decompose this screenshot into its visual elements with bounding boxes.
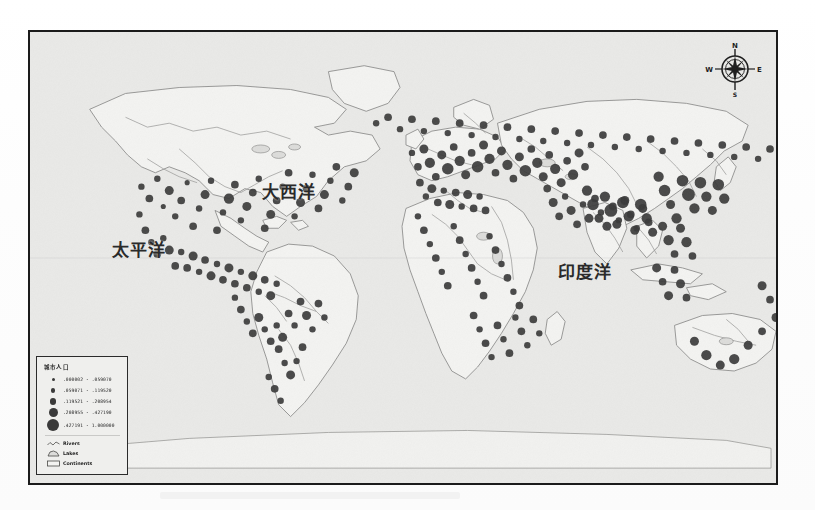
city-symbol [671, 137, 679, 145]
city-symbol [498, 261, 504, 267]
city-symbol [154, 176, 160, 182]
legend-feature-list: RiversLakesContinents [43, 439, 122, 467]
city-symbol [427, 241, 433, 247]
city-symbol [510, 175, 518, 183]
city-symbol [165, 246, 174, 255]
city-symbol [659, 148, 665, 154]
city-symbol [423, 193, 429, 199]
city-symbol [207, 271, 216, 280]
city-symbol [766, 145, 774, 153]
city-symbol [719, 193, 729, 203]
city-symbol [196, 205, 202, 211]
legend-class-row: .119521 - .208954 [43, 397, 122, 406]
legend-feature-label: Lakes [63, 451, 78, 456]
city-symbol [701, 191, 711, 201]
city-symbol [409, 150, 415, 156]
legend-symbol [43, 398, 63, 405]
city-symbol [518, 328, 526, 336]
city-symbol [291, 213, 297, 219]
city-symbol [524, 342, 530, 348]
city-symbol [445, 130, 451, 136]
city-symbol [671, 250, 679, 258]
city-symbol [278, 333, 287, 342]
city-symbol [231, 181, 239, 189]
city-symbol [624, 211, 634, 221]
legend-title: 城市人口 [44, 363, 122, 371]
city-symbol [568, 170, 578, 180]
city-symbol [451, 223, 457, 229]
city-symbol [587, 199, 599, 211]
city-symbol [309, 326, 315, 332]
legend-class-list: .000002 - .059070.059071 - .119520.11952… [43, 375, 122, 431]
city-symbol [486, 233, 492, 239]
legend-dot-icon [52, 378, 55, 381]
city-symbol [585, 214, 594, 223]
city-symbol [695, 177, 707, 189]
ocean-label-pacific: 太平洋 [112, 236, 166, 261]
city-symbol [267, 337, 275, 345]
city-symbol [161, 204, 166, 209]
city-symbol [527, 125, 535, 133]
city-symbol [445, 200, 454, 209]
city-symbol [452, 189, 460, 197]
city-symbol [242, 202, 251, 211]
city-symbol [557, 178, 566, 187]
map-frame[interactable]: 太平洋 大西洋 印度洋 N S W E [28, 30, 778, 485]
city-symbol [671, 213, 681, 223]
city-symbol [653, 172, 663, 182]
lakes-icon [43, 450, 63, 457]
city-symbol [532, 158, 542, 168]
city-symbol [172, 213, 178, 219]
city-symbol [299, 343, 307, 351]
city-symbol [136, 211, 142, 217]
city-symbol [266, 210, 275, 219]
compass-east-label: E [757, 66, 762, 74]
city-symbol [480, 121, 488, 129]
city-symbol [463, 190, 472, 199]
city-symbol [293, 358, 299, 364]
map-legend[interactable]: 城市人口 .000002 - .059070.059071 - .119520.… [36, 356, 128, 475]
legend-dot-icon [49, 408, 58, 417]
legend-class-label: .208955 - .427190 [63, 410, 112, 415]
city-symbol [277, 398, 283, 404]
legend-symbol [43, 408, 63, 417]
city-symbol [580, 201, 586, 207]
city-symbol [573, 220, 581, 228]
legend-class-label: .427191 - 1.000000 [63, 423, 115, 428]
city-symbol [677, 175, 689, 187]
city-symbol [297, 298, 305, 306]
city-symbol [427, 184, 436, 193]
city-symbol [690, 337, 699, 346]
city-symbol [695, 139, 703, 147]
city-symbol [261, 276, 269, 284]
city-symbol [434, 199, 442, 207]
city-symbol [716, 361, 725, 370]
city-symbol [437, 150, 446, 159]
city-symbol [575, 148, 584, 157]
city-symbol [630, 226, 639, 235]
city-symbol [474, 279, 480, 285]
city-symbol [165, 186, 174, 195]
city-symbol [238, 217, 244, 223]
city-symbol [600, 191, 610, 201]
city-symbol [689, 252, 697, 260]
city-symbol [213, 226, 221, 234]
city-symbol [397, 126, 403, 132]
city-symbol [497, 146, 506, 155]
city-symbol [456, 119, 464, 127]
city-symbol [659, 278, 667, 286]
city-symbol [766, 296, 774, 304]
city-symbol [281, 360, 287, 366]
city-symbol [612, 144, 618, 150]
city-symbol [666, 200, 675, 209]
city-symbol [659, 185, 671, 197]
city-symbol [196, 269, 202, 275]
city-symbol [470, 205, 478, 213]
city-symbol [421, 128, 427, 134]
city-symbol [384, 113, 392, 121]
city-symbol [482, 207, 490, 215]
ghost-text-line [160, 492, 460, 499]
city-symbol [315, 300, 323, 308]
city-symbol [442, 163, 454, 175]
city-symbol [224, 263, 233, 272]
